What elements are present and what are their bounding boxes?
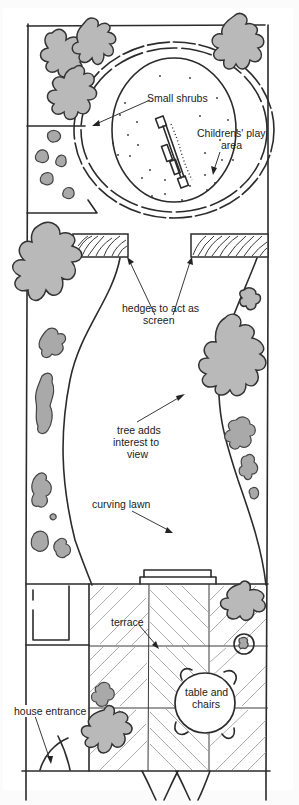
tree-left-middle <box>13 222 82 300</box>
label-table-line1: table and <box>185 686 228 698</box>
label-tree-line2: interest to <box>113 436 159 448</box>
label-small-shrubs: Small shrubs <box>147 92 208 104</box>
label-tree-line1: tree adds <box>117 424 161 436</box>
side-structure <box>26 586 89 645</box>
tree-arrowhead <box>176 394 185 401</box>
terrace-shrub-left <box>92 682 115 706</box>
house-entrance <box>35 716 70 770</box>
page: Small shrubs Childrens' play area hedges… <box>0 0 299 805</box>
tree-right-upper-shrub <box>240 288 261 310</box>
label-childrens-play-line1: Childrens' play <box>197 127 266 139</box>
lawn-arrowhead <box>165 527 173 533</box>
swing-set <box>156 116 192 188</box>
lawn-arrow <box>132 511 168 530</box>
left-bed-shrubs <box>31 328 70 557</box>
label-childrens-play-line2: area <box>221 139 242 151</box>
label-tree-line3: view <box>127 448 148 460</box>
french-doors <box>142 771 210 800</box>
label-hedges-line2: screen <box>143 314 175 326</box>
label-house-entrance: house entrance <box>14 705 86 717</box>
label-table-line2: chairs <box>192 698 220 710</box>
tree-arrow <box>137 397 180 422</box>
tree-right-middle <box>199 314 266 395</box>
bed-divider-bottom <box>27 200 97 213</box>
garden-plan-drawing <box>0 0 299 805</box>
label-terrace: terrace <box>111 616 144 628</box>
right-bed-shrubs <box>225 417 259 499</box>
steps <box>140 570 216 584</box>
label-hedges-line1: hedges to act as <box>122 302 199 314</box>
potted-plant <box>234 634 254 654</box>
label-curving-lawn: curving lawn <box>92 498 150 510</box>
terrace-tree-right <box>221 581 266 620</box>
hedge-right <box>191 234 268 257</box>
small-shrubs <box>35 130 74 198</box>
